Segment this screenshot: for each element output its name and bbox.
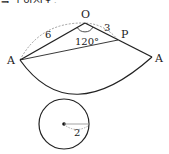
label-radius-2: 2 xyxy=(74,127,80,138)
cone-net-diagram: O P A A 6 3 120° 2 xyxy=(0,0,169,154)
label-P: P xyxy=(121,28,129,41)
label-A-right: A xyxy=(154,52,164,65)
label-length-3: 3 xyxy=(104,22,110,33)
angle-arc xyxy=(77,27,93,32)
label-length-6: 6 xyxy=(45,29,51,40)
label-A-left: A xyxy=(6,54,16,67)
label-angle-120: 120° xyxy=(75,36,99,47)
segment-AP xyxy=(20,40,118,60)
sector-arc xyxy=(20,57,152,94)
label-O: O xyxy=(81,8,90,21)
